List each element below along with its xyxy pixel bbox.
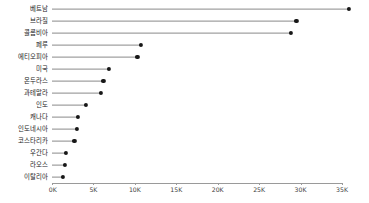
chart-row: 과테말라 xyxy=(52,87,369,99)
value-dot[interactable] xyxy=(64,151,68,155)
chart-row: 인도 xyxy=(52,99,369,111)
chart-row: 페루 xyxy=(52,39,369,51)
value-dot[interactable] xyxy=(139,43,143,47)
x-axis-baseline xyxy=(52,183,342,184)
value-dot[interactable] xyxy=(101,79,105,83)
plot-area: 베트남브라질콜롬비아페루에티오피아미국온두라스과테말라인도캐나다인도네시아코스타… xyxy=(52,3,369,183)
value-stem xyxy=(52,69,109,70)
value-dot[interactable] xyxy=(76,115,80,119)
category-label: 페루 xyxy=(36,42,48,48)
x-axis: 0K5K10K15K20K25K30K35K xyxy=(52,183,369,203)
category-label: 베트남 xyxy=(30,6,48,12)
category-label: 콜롬비아 xyxy=(24,30,48,36)
tick-label: 10K xyxy=(129,187,141,193)
chart-row: 온두라스 xyxy=(52,75,369,87)
category-label: 과테말라 xyxy=(24,90,48,96)
value-dot[interactable] xyxy=(347,7,351,11)
chart-row: 미국 xyxy=(52,63,369,75)
category-label: 캐나다 xyxy=(30,114,48,120)
value-stem xyxy=(52,45,141,46)
value-dot[interactable] xyxy=(72,139,76,143)
value-dot[interactable] xyxy=(289,31,293,35)
value-stem xyxy=(52,105,86,106)
category-label: 온두라스 xyxy=(24,78,48,84)
value-stem xyxy=(52,57,137,58)
value-stem xyxy=(52,117,78,118)
tick-label: 25K xyxy=(253,187,265,193)
tick-label: 35K xyxy=(336,187,348,193)
value-stem xyxy=(52,129,77,130)
chart-row: 우간다 xyxy=(52,147,369,159)
tick-label: 5K xyxy=(89,187,97,193)
value-dot[interactable] xyxy=(75,127,79,131)
chart-row: 베트남 xyxy=(52,3,369,15)
value-stem xyxy=(52,33,291,34)
chart-row: 라오스 xyxy=(52,159,369,171)
category-label: 브라질 xyxy=(30,18,48,24)
value-dot[interactable] xyxy=(135,55,139,59)
value-dot[interactable] xyxy=(99,91,103,95)
chart-row: 콜롬비아 xyxy=(52,27,369,39)
category-label: 에티오피아 xyxy=(18,54,48,60)
chart-row: 이탈리아 xyxy=(52,171,369,183)
category-label: 우간다 xyxy=(30,150,48,156)
chart-row: 인도네시아 xyxy=(52,123,369,135)
value-stem xyxy=(52,141,74,142)
tick-label: 0K xyxy=(49,187,57,193)
category-label: 인도 xyxy=(36,102,48,108)
chart-row: 코스타리카 xyxy=(52,135,369,147)
tick-label: 20K xyxy=(212,187,224,193)
value-dot[interactable] xyxy=(294,19,298,23)
category-label: 이탈리아 xyxy=(24,174,48,180)
value-stem xyxy=(52,93,101,94)
chart-row: 캐나다 xyxy=(52,111,369,123)
value-stem xyxy=(52,9,349,10)
tick-label: 30K xyxy=(295,187,307,193)
value-dot[interactable] xyxy=(107,67,111,71)
value-dot[interactable] xyxy=(84,103,88,107)
category-label: 미국 xyxy=(36,66,48,72)
category-label: 코스타리카 xyxy=(18,138,48,144)
value-stem xyxy=(52,81,103,82)
value-dot[interactable] xyxy=(63,163,67,167)
lollipop-chart: 베트남브라질콜롬비아페루에티오피아미국온두라스과테말라인도캐나다인도네시아코스타… xyxy=(0,0,369,203)
tick-label: 15K xyxy=(170,187,182,193)
chart-row: 브라질 xyxy=(52,15,369,27)
value-dot[interactable] xyxy=(61,175,65,179)
chart-row: 에티오피아 xyxy=(52,51,369,63)
value-stem xyxy=(52,21,296,22)
category-label: 인도네시아 xyxy=(18,126,48,132)
category-label: 라오스 xyxy=(30,162,48,168)
